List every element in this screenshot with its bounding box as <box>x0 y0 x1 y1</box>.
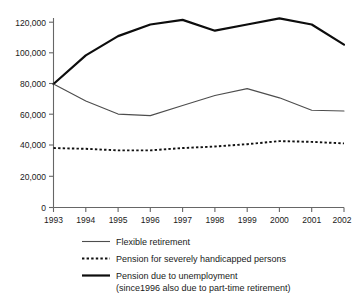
legend-label-0: Flexible retirement <box>116 237 191 247</box>
chart-canvas: 120,000 100,000 80,000 60,000 40,000 20,… <box>0 0 362 300</box>
series-line-flexible-retirement <box>54 84 345 116</box>
legend-label-2: Pension due to unemployment <box>116 271 238 281</box>
y-tick-label-60000: 60,000 <box>20 110 46 120</box>
x-axis-ticks <box>54 208 345 213</box>
x-tick-label-1993: 1993 <box>44 215 63 225</box>
legend-item-flexible-retirement[interactable]: Flexible retirement <box>82 237 191 247</box>
y-axis-ticks <box>49 22 54 207</box>
legend-item-pension-due-to-unemployment[interactable]: Pension due to unemployment (since1996 a… <box>82 271 291 293</box>
y-axis-tick-labels: 120,000 100,000 80,000 60,000 40,000 20,… <box>15 18 46 213</box>
y-tick-label-40000: 40,000 <box>20 140 46 150</box>
x-tick-label-1997: 1997 <box>173 215 192 225</box>
x-tick-label-1996: 1996 <box>141 215 160 225</box>
x-tick-label-1999: 1999 <box>238 215 257 225</box>
x-tick-label-1994: 1994 <box>76 215 95 225</box>
line-chart: 120,000 100,000 80,000 60,000 40,000 20,… <box>0 0 362 300</box>
x-tick-label-2001: 2001 <box>302 215 321 225</box>
legend-sublabel-2: (since1996 also due to part-time retirem… <box>116 283 291 293</box>
x-tick-label-1995: 1995 <box>109 215 128 225</box>
legend-label-1: Pension for severely handicapped persons <box>116 254 287 264</box>
y-tick-label-80000: 80,000 <box>20 79 46 89</box>
series-line-pension-for-severely-handicapped-persons <box>54 141 345 150</box>
x-tick-label-1998: 1998 <box>205 215 224 225</box>
x-tick-label-2002: 2002 <box>333 215 352 225</box>
legend-item-pension-for-severely-handicapped-persons[interactable]: Pension for severely handicapped persons <box>82 254 287 264</box>
x-tick-label-2000: 2000 <box>270 215 289 225</box>
y-tick-label-120000: 120,000 <box>15 18 46 28</box>
y-tick-label-20000: 20,000 <box>20 172 46 182</box>
chart-legend: Flexible retirement Pension for severely… <box>82 237 291 293</box>
series-line-pension-due-to-unemployment <box>54 18 345 84</box>
y-tick-label-100000: 100,000 <box>15 48 46 58</box>
y-tick-label-0: 0 <box>41 203 46 213</box>
x-axis-tick-labels: 1993 1994 1995 1996 1997 1998 1999 2000 … <box>44 215 352 225</box>
